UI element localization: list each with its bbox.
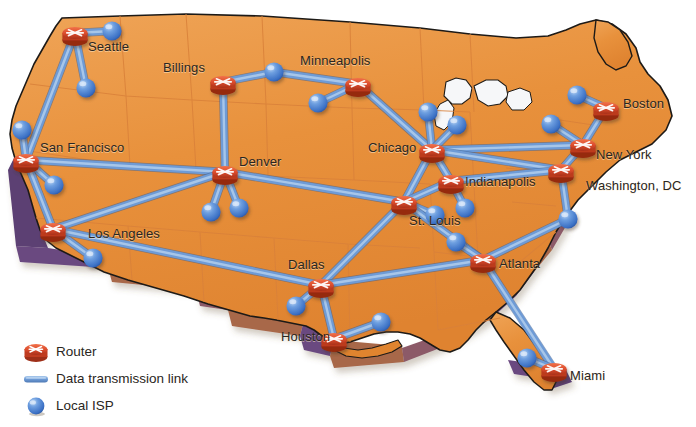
router-node[interactable] [570,139,595,158]
router-node[interactable] [321,333,346,352]
isp-node[interactable] [102,21,121,40]
isp-node[interactable] [418,102,437,121]
isp-node[interactable] [446,232,465,251]
isp-node[interactable] [455,198,474,217]
isp-node[interactable] [264,62,283,81]
router-node[interactable] [391,196,416,215]
router-node[interactable] [212,166,237,185]
network-map-figure: SeattleBillingsMinneapolisSan FranciscoD… [0,0,696,427]
transmission-link [432,145,583,150]
legend: Router Data transmission link Local ISP [16,338,246,419]
router-node[interactable] [548,164,573,183]
isp-node[interactable] [425,205,444,224]
router-node[interactable] [470,254,495,273]
isp-node[interactable] [76,78,95,97]
isp-node[interactable] [371,312,390,331]
router-node[interactable] [210,76,235,95]
router-node[interactable] [13,154,38,173]
isp-node[interactable] [201,202,220,221]
router-node[interactable] [308,279,333,298]
router-node[interactable] [62,27,87,46]
isp-sphere-icon [16,395,56,417]
router-node[interactable] [40,223,65,242]
isp-node[interactable] [541,114,560,133]
isp-node[interactable] [567,85,586,104]
router-node[interactable] [419,144,444,163]
isp-node[interactable] [229,198,248,217]
legend-label-router: Router [56,344,97,359]
router-icon [16,341,56,363]
isp-node[interactable] [286,296,305,315]
legend-label-isp: Local ISP [56,398,114,413]
isp-node[interactable] [517,348,536,367]
legend-row-router: Router [16,338,246,365]
router-node[interactable] [438,175,463,194]
router-node[interactable] [541,363,566,382]
legend-label-link: Data transmission link [56,371,188,386]
isp-node[interactable] [12,120,31,139]
isp-node[interactable] [83,248,102,267]
router-node[interactable] [593,102,618,121]
isp-node[interactable] [447,115,466,134]
isp-node[interactable] [308,93,327,112]
transmission-link [223,82,225,172]
legend-row-isp: Local ISP [16,392,246,419]
isp-node[interactable] [558,209,577,228]
isp-node[interactable] [44,175,63,194]
legend-row-link: Data transmission link [16,365,246,392]
router-node[interactable] [345,78,370,97]
link-icon [16,371,56,387]
